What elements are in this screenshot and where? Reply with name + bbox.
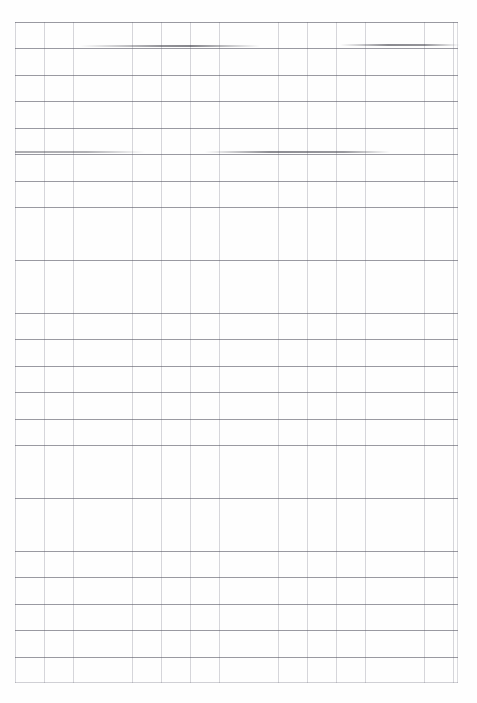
scanned-page	[0, 0, 477, 703]
grid-horizontal-rules	[15, 22, 458, 683]
grid-right-edge-rule	[457, 22, 458, 683]
grid-paper-area	[15, 22, 458, 683]
grid-bottom-edge-rule	[15, 682, 458, 683]
